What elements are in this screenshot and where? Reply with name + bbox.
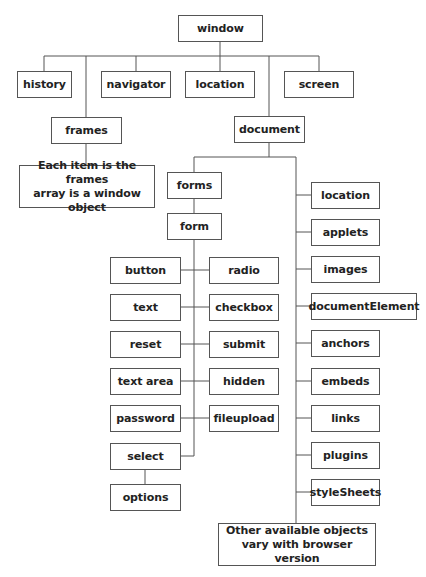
- node-label: styleSheets: [310, 486, 382, 499]
- node-styleSheets: styleSheets: [311, 479, 380, 506]
- node-forms: forms: [167, 172, 222, 199]
- node-submit: submit: [209, 331, 279, 358]
- node-label: radio: [228, 264, 260, 277]
- node-text: text: [110, 294, 181, 321]
- note-line: array is a window object: [20, 187, 154, 215]
- node-hidden: hidden: [209, 368, 279, 395]
- node-label: fileupload: [213, 412, 274, 425]
- node-label: document: [239, 123, 300, 136]
- node-links: links: [311, 405, 380, 432]
- node-other-objects: Other available objects vary with browse…: [218, 523, 376, 566]
- node-label: hidden: [223, 375, 265, 388]
- node-label: button: [125, 264, 166, 277]
- node-label: select: [127, 450, 163, 463]
- node-label: form: [180, 220, 209, 233]
- node-anchors: anchors: [311, 330, 380, 357]
- node-label: documentElement: [308, 300, 419, 313]
- node-screen: screen: [284, 71, 354, 98]
- node-label: password: [116, 412, 175, 425]
- node-label: frames: [65, 124, 108, 137]
- node-options: options: [110, 484, 181, 511]
- node-form: form: [167, 213, 222, 240]
- note-line: Each item is the frames: [20, 159, 154, 187]
- node-label: anchors: [321, 337, 369, 350]
- node-textarea: text area: [110, 368, 181, 395]
- node-label: checkbox: [215, 301, 272, 314]
- node-label: text: [133, 301, 158, 314]
- node-document: document: [234, 116, 305, 143]
- note-line: vary with browser version: [219, 538, 375, 566]
- node-label: window: [197, 22, 244, 35]
- node-navigator: navigator: [101, 71, 171, 98]
- node-reset: reset: [110, 331, 181, 358]
- node-applets: applets: [311, 219, 380, 246]
- node-label: embeds: [321, 375, 369, 388]
- diagram-canvas: window history navigator location screen…: [0, 0, 426, 577]
- node-label: links: [331, 412, 360, 425]
- node-label: forms: [177, 179, 212, 192]
- node-frames-note: Each item is the frames array is a windo…: [19, 165, 155, 208]
- node-plugins: plugins: [311, 442, 380, 469]
- node-documentElement: documentElement: [311, 293, 417, 320]
- node-label: plugins: [323, 449, 368, 462]
- node-fileupload: fileupload: [209, 405, 279, 432]
- node-frames: frames: [51, 117, 122, 144]
- node-label: options: [123, 491, 169, 504]
- node-checkbox: checkbox: [209, 294, 279, 321]
- node-images: images: [311, 256, 380, 283]
- node-window-location: location: [185, 71, 255, 98]
- node-label: navigator: [107, 78, 166, 91]
- node-label: location: [321, 189, 370, 202]
- node-label: submit: [223, 338, 265, 351]
- node-embeds: embeds: [311, 368, 380, 395]
- node-radio: radio: [209, 257, 279, 284]
- node-label: text area: [118, 375, 174, 388]
- node-label: location: [196, 78, 245, 91]
- node-window: window: [178, 15, 263, 42]
- node-label: screen: [299, 78, 340, 91]
- node-button: button: [110, 257, 181, 284]
- node-label: reset: [130, 338, 162, 351]
- node-label: applets: [323, 226, 369, 239]
- node-select: select: [110, 443, 181, 470]
- node-label: images: [324, 263, 368, 276]
- node-document-location: location: [311, 182, 380, 209]
- node-label: history: [23, 78, 66, 91]
- node-password: password: [110, 405, 181, 432]
- note-line: Other available objects: [226, 524, 368, 538]
- node-history: history: [17, 71, 72, 98]
